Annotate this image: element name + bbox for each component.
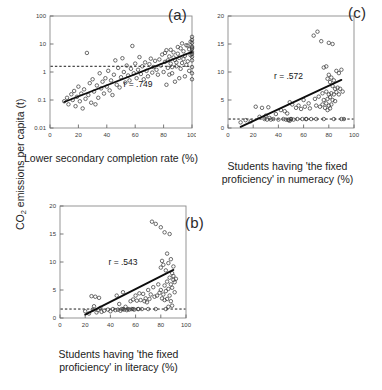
panel-b-xlabel-line1: Students having 'the fixed <box>36 348 201 361</box>
svg-text:0.1: 0.1 <box>38 97 47 103</box>
panel-c-plot: 05101520020406080100r = .572 <box>208 6 360 146</box>
svg-text:0: 0 <box>58 322 62 328</box>
svg-text:80: 80 <box>160 132 167 138</box>
panel-b: 05101520020406080100r = .543 <box>40 196 192 336</box>
panel-a-plot: 0.010.1110100020406080100r = .749 <box>24 6 196 146</box>
svg-text:100: 100 <box>349 132 360 138</box>
panel-b-xlabel-line2: proficiency' in literacy (%) <box>36 361 201 374</box>
svg-text:0: 0 <box>48 132 52 138</box>
svg-text:40: 40 <box>103 132 110 138</box>
svg-text:1: 1 <box>43 69 47 75</box>
panel-c-xlabel-line2: proficiency' in numeracy (%) <box>205 173 370 186</box>
panel-c: 05101520020406080100r = .572 <box>208 6 360 146</box>
panel-b-plot: 05101520020406080100r = .543 <box>40 196 192 336</box>
svg-text:20: 20 <box>75 132 82 138</box>
svg-text:80: 80 <box>157 322 164 328</box>
svg-text:0: 0 <box>226 132 230 138</box>
panel-a-xlabel-line1: Lower secondary completion rate (%) <box>24 152 196 165</box>
svg-text:100: 100 <box>187 132 196 138</box>
svg-text:10: 10 <box>39 41 46 47</box>
svg-text:20: 20 <box>49 203 56 209</box>
svg-text:15: 15 <box>217 41 224 47</box>
svg-text:0: 0 <box>221 125 225 131</box>
svg-text:80: 80 <box>325 132 332 138</box>
y-axis-label-prefix: CO <box>14 214 26 230</box>
panel-c-xlabel-line1: Students having 'the fixed <box>205 160 370 173</box>
panel-c-tag: (c) <box>348 4 366 21</box>
svg-text:60: 60 <box>132 322 139 328</box>
svg-text:10: 10 <box>217 69 224 75</box>
svg-text:0: 0 <box>53 315 57 321</box>
correlation-annotation: r = .543 <box>108 257 137 267</box>
svg-text:100: 100 <box>181 322 192 328</box>
svg-text:15: 15 <box>49 231 56 237</box>
correlation-annotation: r = .749 <box>124 79 153 89</box>
svg-text:60: 60 <box>300 132 307 138</box>
svg-text:40: 40 <box>107 322 114 328</box>
figure-root: CO2 emissions per capita (t) 0.010.11101… <box>0 0 382 390</box>
svg-text:0.01: 0.01 <box>34 125 46 131</box>
svg-text:5: 5 <box>221 97 225 103</box>
svg-text:100: 100 <box>36 13 47 19</box>
panel-b-tag: (b) <box>185 214 204 231</box>
panel-a-tag: (a) <box>168 6 187 23</box>
svg-text:40: 40 <box>275 132 282 138</box>
svg-text:20: 20 <box>217 13 224 19</box>
panel-a: 0.010.1110100020406080100r = .749 <box>24 6 196 146</box>
svg-text:20: 20 <box>82 322 89 328</box>
svg-text:10: 10 <box>49 259 56 265</box>
correlation-annotation: r = .572 <box>274 71 303 81</box>
svg-text:5: 5 <box>53 287 57 293</box>
svg-text:20: 20 <box>250 132 257 138</box>
svg-text:60: 60 <box>132 132 139 138</box>
y-axis-label-subscript: 2 <box>19 210 28 214</box>
